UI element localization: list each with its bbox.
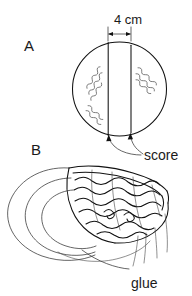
score-label: score (144, 147, 178, 163)
shell-fold-line-2 (112, 172, 120, 230)
circle-outline (73, 42, 167, 136)
dimension-label: 4 cm (114, 12, 142, 27)
instructional-diagram: A 4 cm (0, 0, 192, 296)
score-callout-group: score (106, 133, 178, 163)
score-leader-right (131, 137, 143, 154)
shell-inner-rim (73, 172, 162, 196)
panel-b-label: B (31, 141, 41, 158)
hatch-squiggle-lower-left (86, 104, 104, 127)
panel-a-label: A (24, 37, 34, 54)
shell-wave-texture-group (74, 170, 162, 238)
shell-fold-line-4 (152, 185, 160, 216)
shell-fold-line-3 (133, 177, 142, 228)
glue-leader-line (82, 250, 129, 269)
figure-root: A 4 cm (0, 0, 192, 296)
shell-wave-3 (75, 198, 161, 207)
shell-corner-fold (162, 196, 164, 210)
glue-label: glue (131, 275, 158, 291)
shell-right-edge (167, 191, 169, 203)
shell-wave-2 (74, 187, 160, 196)
hatch-squiggle-upper-right (135, 65, 157, 96)
hatch-squiggle-upper-left (84, 66, 105, 101)
dimension-arrow (108, 27, 131, 41)
score-leader-left (110, 139, 142, 155)
panel-a-group: A 4 cm (24, 12, 178, 163)
shell-wave-6 (97, 232, 147, 238)
shell-wave-4 (79, 209, 162, 218)
shell-curl-accent-2 (124, 213, 134, 222)
glue-strand-3 (155, 228, 157, 258)
shell-wave-5 (86, 221, 154, 229)
panel-b-group: B (8, 141, 169, 291)
dimension-arrowhead-right (126, 32, 131, 36)
hatch-squiggles-group (84, 65, 158, 126)
dimension-arrowhead-left (108, 32, 113, 36)
glue-callout-group: glue (82, 214, 167, 291)
